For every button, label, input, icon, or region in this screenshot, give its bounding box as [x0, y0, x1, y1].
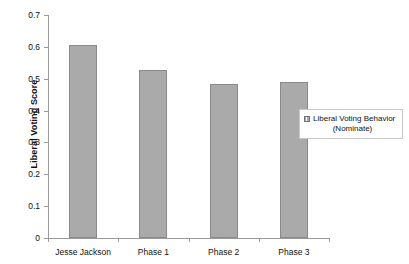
y-tick-label: 0.5: [12, 75, 40, 83]
x-category-label: Phase 2: [189, 247, 259, 257]
legend-item-label: Liberal Voting Behavior: [313, 114, 395, 124]
bar: [210, 84, 238, 238]
y-tick-label: 0.1: [12, 202, 40, 210]
y-tick-mark: [44, 79, 48, 80]
x-tick-mark: [329, 238, 330, 242]
y-tick-mark: [44, 142, 48, 143]
legend-item-label-line2: (Nominate): [304, 124, 399, 134]
y-tick-mark: [44, 206, 48, 207]
y-tick-label: 0.4: [12, 107, 40, 115]
y-axis-line: [48, 15, 49, 239]
y-tick-label: 0.3: [12, 138, 40, 146]
y-tick-mark: [44, 15, 48, 16]
bar: [280, 82, 308, 238]
y-tick-label: 0: [12, 234, 40, 242]
x-tick-mark: [189, 238, 190, 242]
y-axis-title: Liberal Voting Score: [29, 34, 39, 214]
y-tick-mark: [44, 174, 48, 175]
bar: [69, 45, 97, 238]
y-tick-mark: [44, 47, 48, 48]
legend: Liberal Voting Behavior (Nominate): [299, 109, 403, 139]
x-tick-mark: [118, 238, 119, 242]
x-tick-mark: [48, 238, 49, 242]
x-tick-mark: [259, 238, 260, 242]
bar: [139, 70, 167, 238]
x-category-label: Phase 1: [118, 247, 188, 257]
bar-chart: Liberal Voting Score 0.70.60.50.40.30.20…: [0, 0, 409, 264]
legend-item: Liberal Voting Behavior: [304, 114, 399, 124]
legend-swatch-icon: [304, 116, 310, 122]
y-tick-label: 0.7: [12, 11, 40, 19]
x-category-label: Phase 3: [259, 247, 329, 257]
y-tick-mark: [44, 111, 48, 112]
y-tick-label: 0.6: [12, 43, 40, 51]
y-tick-label: 0.2: [12, 170, 40, 178]
plot-area: 0.70.60.50.40.30.20.10 Jesse JacksonPhas…: [48, 15, 329, 238]
x-category-label: Jesse Jackson: [48, 247, 118, 257]
